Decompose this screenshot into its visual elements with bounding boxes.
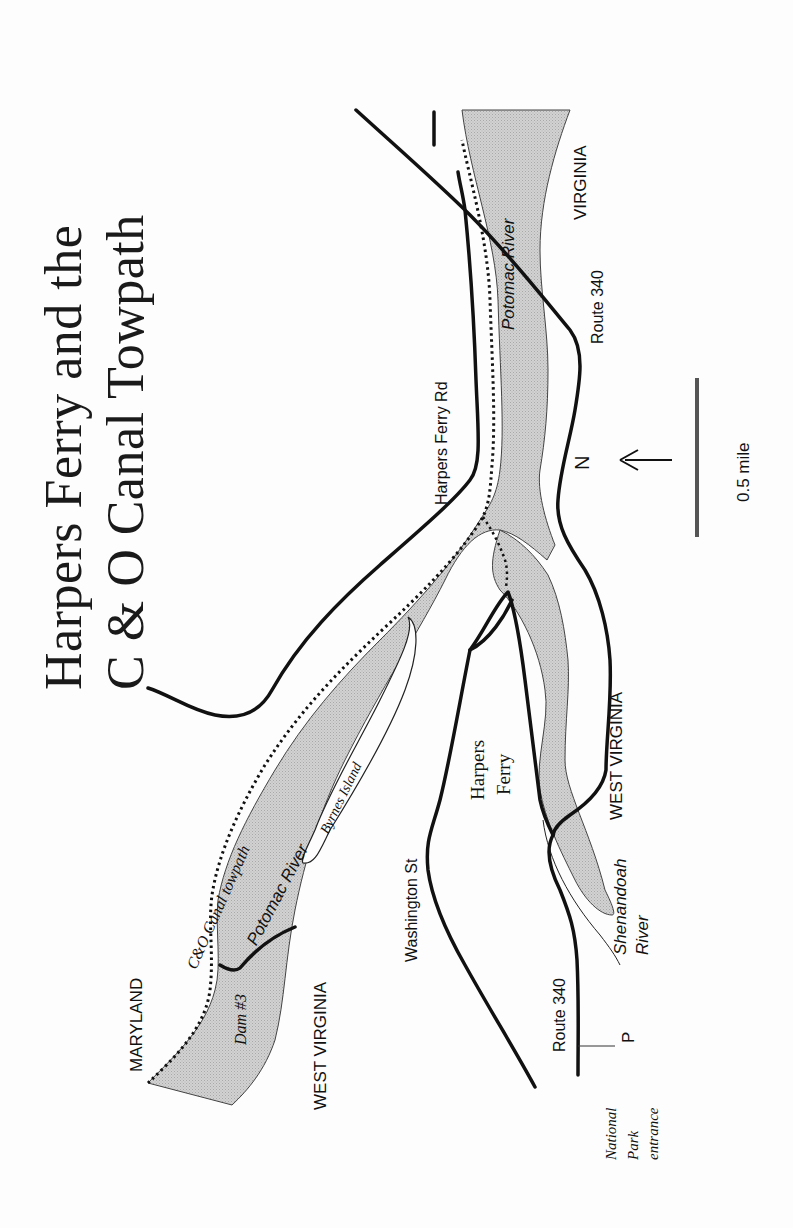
- label-maryland: MARYLAND: [128, 978, 145, 1072]
- label-route-340-north: Route 340: [590, 270, 606, 344]
- scale-bar-label: 0.5 mile: [735, 442, 752, 502]
- label-dam-3: Dam #3: [233, 994, 249, 1045]
- washington-st-line: [427, 650, 535, 1087]
- label-route-340-south: Route 340: [552, 978, 568, 1052]
- label-virginia: VIRGINIA: [572, 145, 589, 220]
- label-shenandoah-river-line2: River: [634, 915, 651, 955]
- label-west-virginia-south: WEST VIRGINIA: [608, 692, 625, 820]
- north-arrow-icon: [620, 450, 672, 470]
- label-harpers-ferry-town-line1: Harpers: [468, 740, 487, 800]
- label-park-entrance-line2: Park: [626, 1131, 641, 1160]
- harpers-ferry-rd-line: [148, 172, 478, 716]
- label-park-entrance-line1: National: [604, 1107, 619, 1160]
- label-shenandoah-river-line1: Shenandoah: [612, 859, 629, 955]
- label-potomac-river-east: Potomac River: [500, 219, 517, 330]
- label-harpers-ferry-town-line2: Ferry: [494, 754, 513, 795]
- label-park-entrance-line3: entrance: [646, 1108, 661, 1160]
- scale-bar: [695, 378, 699, 537]
- label-west-virginia-north: WEST VIRGINIA: [312, 982, 329, 1110]
- north-label: N: [572, 456, 592, 470]
- label-washington-st: Washington St: [404, 859, 420, 962]
- map-title-line1: Harpers Ferry and the: [38, 225, 90, 690]
- label-parking: P: [620, 1032, 637, 1043]
- map-title-line2: C & O Canal Towpath: [100, 214, 152, 690]
- label-harpers-ferry-rd: Harpers Ferry Rd: [434, 381, 450, 505]
